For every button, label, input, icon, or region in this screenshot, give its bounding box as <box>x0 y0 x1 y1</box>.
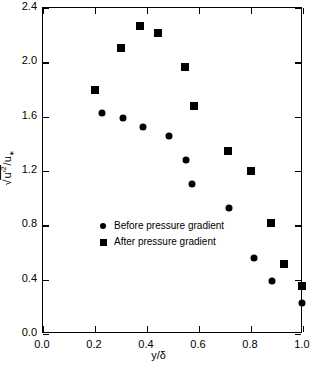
x-tick-t <box>147 8 148 14</box>
y-tick-label: 2.4 <box>3 0 37 12</box>
y-tick-r <box>295 171 301 172</box>
plot-area <box>42 7 302 333</box>
y-tick-label: 0.4 <box>3 272 37 284</box>
y-tick-r <box>295 62 301 63</box>
data-point-square <box>181 63 189 71</box>
y-tick-r <box>295 8 301 9</box>
data-point-square <box>298 282 306 290</box>
data-point-square <box>280 260 288 268</box>
data-point-square <box>136 22 144 30</box>
data-point-square <box>154 29 162 37</box>
x-tick-t <box>303 8 304 14</box>
data-point-circle <box>226 205 233 212</box>
y-tick-label: 0.8 <box>3 217 37 229</box>
x-tick-b <box>199 326 200 332</box>
y-tick-label: 2.0 <box>3 54 37 66</box>
data-point-square <box>117 44 125 52</box>
legend-marker-circle <box>100 223 106 229</box>
data-point-circle <box>140 123 147 130</box>
y-tick-r <box>295 280 301 281</box>
legend-label: After pressure gradient <box>114 236 216 247</box>
data-point-circle <box>119 115 126 122</box>
y-tick-r <box>295 117 301 118</box>
y-tick-l <box>43 62 49 63</box>
x-axis-title: y/δ <box>0 349 317 361</box>
data-point-square <box>190 102 198 110</box>
x-tick-b <box>303 326 304 332</box>
y-axis-title-text: √u′2/u∗ <box>1 150 13 185</box>
data-point-circle <box>250 255 257 262</box>
data-point-circle <box>299 300 306 307</box>
x-tick-b <box>147 326 148 332</box>
x-tick-b <box>95 326 96 332</box>
scatter-chart-figure: 0.00.20.40.60.81.00.00.40.81.21.62.02.4 … <box>0 0 317 366</box>
y-tick-label: 0.0 <box>3 326 37 338</box>
y-tick-l <box>43 171 49 172</box>
y-tick-r <box>295 225 301 226</box>
y-tick-l <box>43 225 49 226</box>
x-tick-t <box>199 8 200 14</box>
y-tick-r <box>295 334 301 335</box>
legend-label: Before pressure gradient <box>114 220 224 231</box>
data-point-circle <box>269 277 276 284</box>
x-tick-b <box>251 326 252 332</box>
data-point-square <box>267 219 275 227</box>
data-point-circle <box>98 109 105 116</box>
y-tick-l <box>43 8 49 9</box>
x-tick-b <box>43 326 44 332</box>
data-point-square <box>91 86 99 94</box>
data-point-square <box>224 147 232 155</box>
y-tick-l <box>43 117 49 118</box>
data-point-circle <box>166 133 173 140</box>
legend-marker-square <box>100 239 107 246</box>
data-point-circle <box>188 180 195 187</box>
x-tick-t <box>251 8 252 14</box>
data-point-circle <box>183 157 190 164</box>
y-axis-title: √u′2/u∗ <box>0 138 16 198</box>
x-tick-t <box>95 8 96 14</box>
data-point-square <box>247 167 255 175</box>
y-tick-l <box>43 334 49 335</box>
y-tick-label: 1.6 <box>3 109 37 121</box>
y-tick-l <box>43 280 49 281</box>
